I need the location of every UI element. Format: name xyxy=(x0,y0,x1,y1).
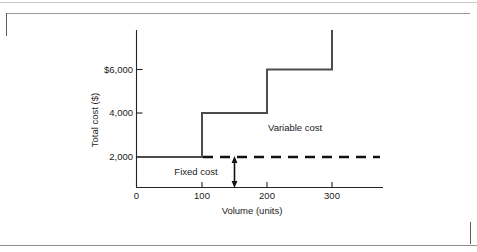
y-tick-label-6000: $6,000 xyxy=(104,64,133,75)
fixed-cost-arrow-head-up xyxy=(232,156,238,163)
x-tick-label-100: 100 xyxy=(194,190,210,201)
y-axis-title: Total cost ($) xyxy=(89,93,100,147)
x-tick-label-300: 300 xyxy=(324,190,340,201)
variable-cost-label: Variable cost xyxy=(268,122,323,133)
y-tick-label-4000: 4,000 xyxy=(109,107,133,118)
x-axis-title: Volume (units) xyxy=(222,205,283,216)
total-cost-step-line xyxy=(137,30,332,157)
page-canvas: $6,000 4,000 2,000 0 100 200 300 Total c… xyxy=(0,0,477,252)
y-tick-label-2000: 2,000 xyxy=(109,151,133,162)
chart-svg: $6,000 4,000 2,000 0 100 200 300 Total c… xyxy=(0,0,477,252)
x-tick-label-0: 0 xyxy=(134,190,139,201)
fixed-cost-label: Fixed cost xyxy=(174,166,218,177)
step-cost-chart: $6,000 4,000 2,000 0 100 200 300 Total c… xyxy=(0,0,477,252)
x-tick-label-200: 200 xyxy=(259,190,275,201)
